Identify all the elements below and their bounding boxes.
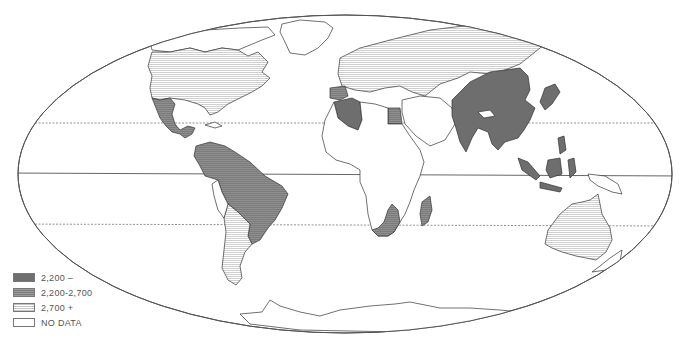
legend-swatch-no-data [13, 318, 35, 327]
legend-swatch-2200-2700 [13, 288, 35, 297]
legend: 2,200 – 2,200-2,700 2,700 + NO DATA [13, 270, 92, 330]
region-borneo [546, 158, 562, 178]
region-egypt [388, 108, 402, 124]
legend-item-no-data: NO DATA [13, 315, 92, 330]
legend-swatch-under-2200 [13, 273, 35, 282]
legend-label: 2,200-2,700 [41, 288, 92, 298]
legend-item-under-2200: 2,200 – [13, 270, 92, 285]
world-map [0, 0, 685, 342]
legend-item-over-2700: 2,700 + [13, 300, 92, 315]
legend-item-2200-2700: 2,200-2,700 [13, 285, 92, 300]
legend-label: NO DATA [41, 318, 82, 328]
legend-label: 2,700 + [41, 303, 73, 313]
legend-swatch-over-2700 [13, 303, 35, 312]
legend-label: 2,200 – [41, 273, 73, 283]
